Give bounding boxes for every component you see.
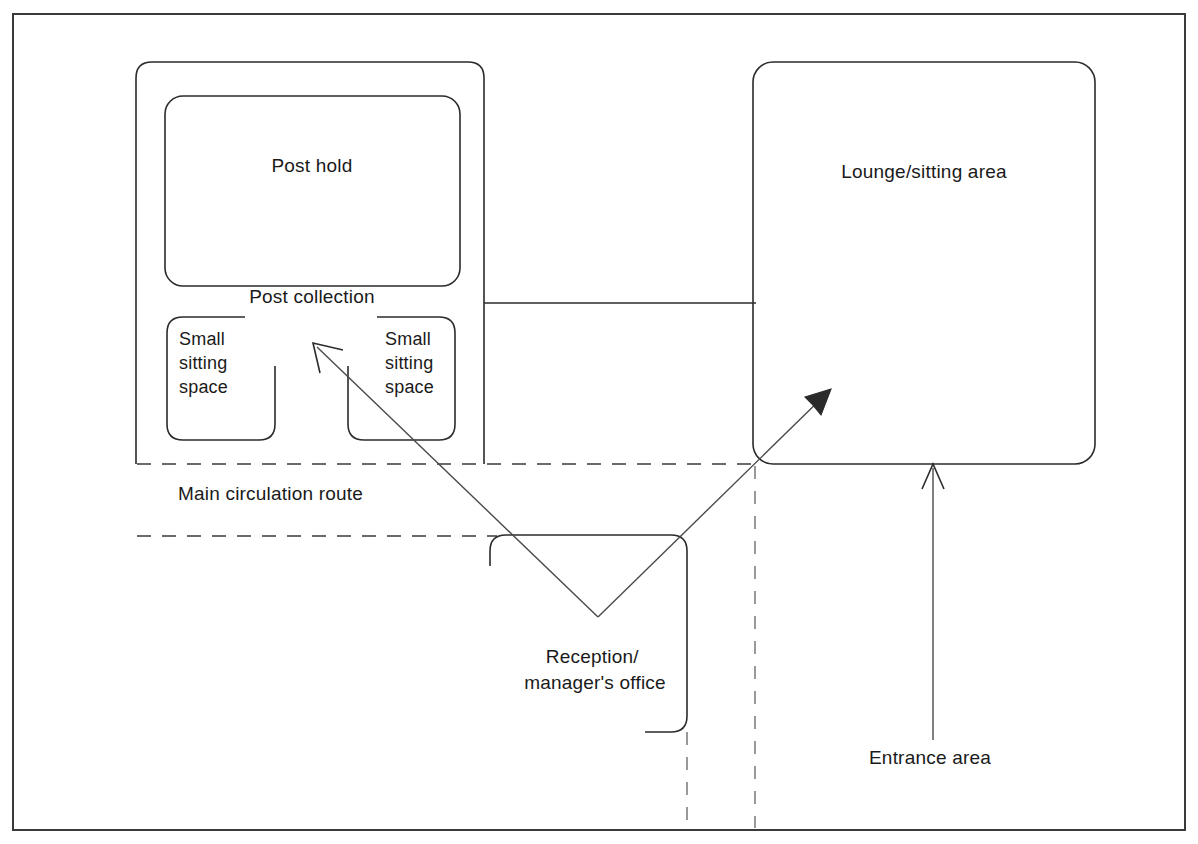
small-sitting-space-right-label: Small sitting space (385, 329, 439, 397)
sss-left-line-3: space (179, 377, 228, 397)
lounge-sitting-area-label: Lounge/sitting area (841, 161, 1007, 182)
lounge-sitting-area-room (753, 62, 1095, 464)
reception-managers-office-outline (490, 535, 687, 732)
post-area-outline (136, 62, 484, 464)
leader-arrow-to-lounge (598, 393, 827, 617)
main-circulation-route-label: Main circulation route (178, 483, 363, 504)
post-collection-label: Post collection (249, 286, 375, 307)
diagram-root: Post hold Post collection Small sitting … (0, 0, 1198, 844)
reception-line-1: Reception/ (546, 646, 639, 667)
sss-right-line-1: Small (385, 329, 431, 349)
entrance-area-label: Entrance area (869, 747, 991, 768)
spatial-relationship-diagram: Post hold Post collection Small sitting … (0, 0, 1198, 844)
sss-right-line-3: space (385, 377, 434, 397)
reception-managers-office-label: Reception/ manager's office (524, 646, 666, 693)
reception-line-2: manager's office (524, 672, 666, 693)
small-sitting-space-left-label: Small sitting space (179, 329, 233, 397)
sss-left-line-1: Small (179, 329, 225, 349)
sss-right-line-2: sitting (385, 353, 433, 373)
sss-left-line-2: sitting (179, 353, 227, 373)
post-hold-room (165, 96, 460, 286)
leader-arrow-to-small-sitting-space (317, 347, 598, 617)
post-hold-label: Post hold (271, 155, 352, 176)
outer-frame (13, 14, 1185, 830)
